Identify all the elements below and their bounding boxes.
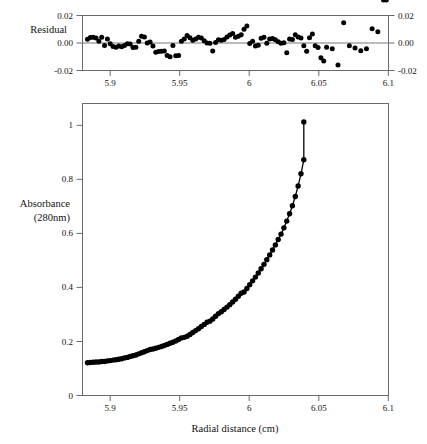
residual-ytick-bottom-left: -0.02 bbox=[54, 66, 73, 76]
residual-xtick-3: 6 bbox=[247, 78, 252, 88]
residual-ytick-bottom-right: -0.02 bbox=[398, 66, 417, 76]
residual-point bbox=[142, 34, 147, 39]
residual-x-ticks bbox=[110, 71, 388, 77]
residual-point bbox=[358, 48, 363, 53]
residual-point bbox=[281, 40, 286, 45]
absorbance-point bbox=[281, 225, 286, 230]
residual-point bbox=[210, 48, 215, 53]
residual-point bbox=[250, 39, 255, 44]
residual-point bbox=[321, 58, 326, 63]
main-x-ticks bbox=[110, 396, 388, 402]
residual-point bbox=[290, 37, 295, 42]
main-ytick-02: 0.2 bbox=[62, 337, 73, 347]
main-xtick-5: 6.1 bbox=[383, 403, 394, 413]
main-ytick-08: 0.8 bbox=[62, 174, 74, 184]
residual-right-ticks bbox=[389, 16, 395, 71]
main-xtick-1: 5.9 bbox=[105, 403, 117, 413]
absorbance-point bbox=[301, 119, 306, 124]
main-ytick-06: 0.6 bbox=[62, 228, 74, 238]
residual-scatter-points bbox=[85, 0, 389, 68]
residual-point bbox=[136, 39, 141, 44]
residual-xtick-5: 6.1 bbox=[383, 78, 394, 88]
residual-point bbox=[170, 43, 175, 48]
sedimentation-equilibrium-figure: 0.02 0.00 -0.02 0.02 0.00 -0.02 5.9 5.95… bbox=[0, 0, 427, 444]
absorbance-point bbox=[270, 247, 275, 252]
main-xtick-2: 5.95 bbox=[172, 403, 188, 413]
residual-ytick-mid-left: 0.00 bbox=[57, 38, 73, 48]
residual-point bbox=[105, 36, 110, 41]
absorbance-point bbox=[276, 237, 281, 242]
residual-point bbox=[96, 39, 101, 44]
residual-point bbox=[370, 26, 375, 31]
residual-left-ticks bbox=[77, 16, 83, 71]
residual-point bbox=[375, 29, 380, 34]
absorbance-point bbox=[298, 171, 303, 176]
main-fit-curve bbox=[87, 122, 303, 363]
main-xtick-4: 6.05 bbox=[311, 403, 327, 413]
residual-point bbox=[162, 48, 167, 53]
residual-point bbox=[133, 45, 138, 50]
absorbance-point bbox=[295, 183, 300, 188]
main-scatter-points bbox=[85, 119, 307, 365]
residual-point bbox=[324, 45, 329, 50]
residual-point bbox=[301, 43, 306, 48]
residual-panel: 0.02 0.00 -0.02 0.02 0.00 -0.02 5.9 5.95… bbox=[30, 0, 417, 88]
absorbance-axis-label-line1: Absorbance bbox=[20, 198, 70, 209]
residual-point bbox=[256, 43, 261, 48]
main-plot-frame bbox=[83, 104, 389, 396]
residual-point bbox=[207, 41, 212, 46]
residual-point bbox=[261, 35, 266, 40]
residual-ytick-top-right: 0.02 bbox=[398, 11, 414, 21]
residual-point bbox=[99, 35, 104, 40]
residual-point bbox=[264, 41, 269, 46]
absorbance-point bbox=[264, 257, 269, 262]
absorbance-point bbox=[278, 231, 283, 236]
residual-point bbox=[284, 50, 289, 55]
absorbance-point bbox=[301, 157, 306, 162]
residual-point bbox=[304, 49, 309, 54]
residual-point bbox=[176, 53, 181, 58]
main-ytick-04: 0.4 bbox=[62, 282, 74, 292]
residual-axis-label: Residual bbox=[30, 24, 67, 35]
residual-point bbox=[310, 31, 315, 36]
absorbance-point bbox=[267, 252, 272, 257]
residual-point bbox=[316, 45, 321, 50]
absorbance-point bbox=[293, 194, 298, 199]
main-ytick-1: 1 bbox=[69, 120, 74, 130]
residual-point bbox=[335, 63, 340, 68]
residual-point bbox=[330, 46, 335, 51]
absorbance-point bbox=[273, 242, 278, 247]
figure-svg: 0.02 0.00 -0.02 0.02 0.00 -0.02 5.9 5.95… bbox=[0, 0, 427, 444]
residual-point bbox=[353, 45, 358, 50]
main-ytick-0: 0 bbox=[69, 391, 74, 401]
absorbance-point bbox=[290, 203, 295, 208]
residual-point bbox=[347, 43, 352, 48]
residual-point bbox=[341, 20, 346, 25]
residual-xtick-1: 5.9 bbox=[105, 78, 117, 88]
x-axis-title: Radial distance (cm) bbox=[192, 423, 279, 435]
residual-point bbox=[148, 39, 153, 44]
absorbance-point bbox=[284, 218, 289, 223]
absorbance-point bbox=[261, 262, 266, 267]
absorbance-axis-label-line2: (280nm) bbox=[34, 212, 71, 224]
residual-point bbox=[150, 44, 155, 49]
residual-point bbox=[364, 46, 369, 51]
residual-point bbox=[298, 36, 303, 41]
residual-point bbox=[244, 23, 249, 28]
main-xtick-3: 6 bbox=[247, 403, 252, 413]
main-panel: 0 0.2 0.4 0.6 0.8 1 5.9 5.95 6 6.05 6.1 … bbox=[20, 104, 394, 436]
residual-xtick-4: 6.05 bbox=[311, 78, 327, 88]
residual-xtick-2: 5.95 bbox=[172, 78, 188, 88]
absorbance-point bbox=[287, 211, 292, 216]
residual-point bbox=[102, 43, 107, 48]
residual-ytick-top-left: 0.02 bbox=[57, 11, 73, 21]
residual-ytick-mid-right: 0.00 bbox=[398, 38, 414, 48]
residual-point bbox=[239, 32, 244, 37]
residual-point bbox=[168, 54, 173, 59]
main-y-ticks bbox=[77, 125, 83, 395]
